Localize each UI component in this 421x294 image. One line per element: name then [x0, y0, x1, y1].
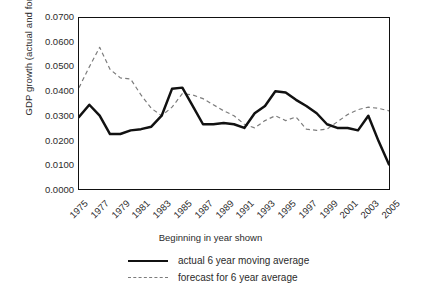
legend-label-forecast: forecast for 6 year average: [170, 272, 298, 283]
chart-legend: actual 6 year moving average forecast fo…: [126, 252, 386, 286]
legend-item-actual: actual 6 year moving average: [126, 252, 386, 269]
legend-label-actual: actual 6 year moving average: [170, 255, 309, 266]
x-axis-title: Beginning in year shown: [0, 232, 421, 243]
legend-swatch-solid-line: [126, 255, 170, 267]
legend-swatch-dashed-line: [126, 272, 170, 284]
legend-item-forecast: forecast for 6 year average: [126, 269, 386, 286]
gdp-growth-line-chart: GDP growth (actual and forecast) 0.00000…: [0, 0, 421, 294]
x-axis-tick-labels: 1975197719791981198319851987198919911993…: [0, 0, 421, 294]
